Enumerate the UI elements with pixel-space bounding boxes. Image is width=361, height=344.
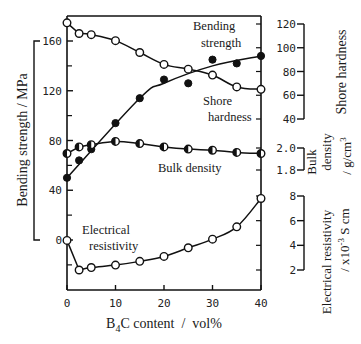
x-tick-label: 20: [157, 297, 170, 310]
filled-circle-marker: [76, 157, 83, 164]
x-tick-label: 0: [64, 297, 71, 310]
open-circle-marker: [136, 49, 144, 57]
x-axis-title: B4C content / vol%: [106, 316, 222, 334]
open-circle-marker: [257, 195, 265, 203]
right-tick-label: 8: [289, 190, 296, 203]
open-circle-marker: [75, 266, 83, 274]
right-tick-label: 100: [276, 42, 296, 55]
left-tick-label: 40: [49, 184, 62, 197]
filled-circle-marker: [185, 80, 192, 87]
series-bulk-density: [63, 138, 265, 158]
right-tick-label: 2: [289, 264, 296, 277]
filled-circle-marker: [63, 174, 70, 181]
annotation-shore-hardness-2: hardness: [208, 110, 252, 124]
open-circle-marker: [233, 83, 241, 91]
right-tick-label: 6: [289, 215, 296, 228]
left-tick-label: 0: [55, 234, 62, 247]
open-circle-marker: [87, 31, 95, 39]
annotation-electrical-1: Electrical: [82, 223, 130, 237]
shore-axis-title: Shore hardness: [334, 29, 349, 114]
right-tick-label: 1.8: [276, 164, 296, 177]
open-circle-marker: [112, 37, 120, 45]
density-axis-title-line1: Bulk: [304, 149, 319, 175]
right-tick-label: 80: [283, 66, 296, 79]
right-axis-resistivity: 2468: [256, 190, 304, 277]
right-tick-label: 4: [289, 239, 296, 252]
right-tick-label: 60: [283, 89, 296, 102]
filled-circle-marker: [233, 60, 240, 67]
open-circle-marker: [63, 19, 71, 27]
left-tick-label: 120: [42, 85, 62, 98]
filled-circle-marker: [160, 76, 167, 83]
x-tick-label: 40: [254, 297, 267, 310]
filled-circle-marker: [257, 52, 264, 59]
annotation-bulk-density: Bulk density: [158, 161, 222, 175]
open-circle-marker: [112, 261, 120, 269]
left-axis-title: Bending strength / MPa: [15, 73, 30, 207]
open-circle-marker: [184, 244, 192, 252]
annotation-bending-strength-2: strength: [201, 36, 242, 50]
right-tick-label: 2.0: [276, 142, 296, 155]
annotation-bending-strength-1: Bending: [193, 19, 236, 33]
open-circle-marker: [184, 65, 192, 73]
annotation-shore-hardness-1: Shore: [203, 94, 233, 108]
density-axis-unit: / g/cm3: [338, 137, 354, 175]
x-tick-label: 30: [206, 297, 219, 310]
right-tick-label: 120: [276, 18, 296, 31]
open-circle-marker: [257, 86, 265, 94]
left-axis-bracket: [34, 41, 40, 240]
open-circle-marker: [87, 264, 95, 272]
chart: 010203040 04080120160 Bending strength /…: [0, 0, 361, 344]
open-circle-marker: [75, 30, 83, 38]
x-tick-label: 10: [109, 297, 122, 310]
right-axis-density: 1.82.0: [256, 142, 304, 177]
x-axis: 010203040: [64, 285, 268, 310]
open-circle-marker: [136, 258, 144, 266]
resistivity-axis-title-line1: Electrical resistivity: [319, 209, 334, 314]
filled-circle-marker: [209, 56, 216, 63]
open-circle-marker: [160, 253, 168, 261]
open-circle-marker: [233, 223, 241, 231]
open-circle-marker: [160, 61, 168, 69]
filled-circle-marker: [136, 95, 143, 102]
left-tick-label: 160: [42, 35, 62, 48]
right-axis-shore: 406080100120: [256, 18, 304, 126]
open-circle-marker: [63, 237, 71, 245]
open-circle-marker: [209, 71, 217, 79]
open-circle-marker: [209, 235, 217, 243]
annotation-electrical-2: resistivity: [89, 239, 139, 253]
right-tick-label: 40: [283, 113, 296, 126]
left-tick-label: 80: [49, 135, 62, 148]
resistivity-axis-unit: / x10-3 S cm: [336, 208, 352, 272]
filled-circle-marker: [112, 119, 119, 126]
density-axis-title-line2: density: [319, 133, 334, 171]
